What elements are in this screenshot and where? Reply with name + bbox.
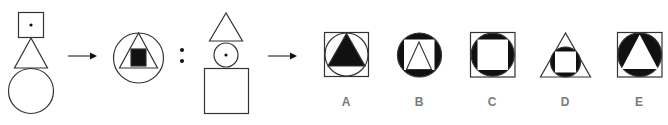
option-c-figure[interactable] [471, 33, 516, 78]
black-square-shape [131, 49, 146, 66]
colon-dot [180, 48, 184, 52]
premise-left-figure [9, 13, 54, 114]
option-c-label: C [482, 95, 502, 109]
dot-shape [29, 23, 32, 26]
option-d-figure[interactable] [541, 33, 591, 77]
circle-shape [9, 69, 54, 114]
option-b-figure[interactable] [398, 33, 442, 77]
option-e-label: E [629, 95, 649, 109]
option-a-figure[interactable] [325, 33, 369, 77]
triangle-shape [210, 13, 243, 41]
option-e-figure[interactable] [618, 33, 663, 78]
option-a-label: A [336, 95, 356, 109]
query-left-figure [205, 13, 249, 114]
option-d-label: D [555, 95, 575, 109]
option-b-label: B [409, 95, 429, 109]
dot-shape [224, 53, 227, 56]
triangle-shape [15, 38, 48, 68]
colon-dot [180, 59, 184, 63]
premise-right-figure [114, 33, 164, 83]
square-shape [205, 69, 249, 114]
separator-colon [180, 48, 186, 64]
right-arrow-icon [68, 53, 97, 60]
right-arrow-icon [268, 53, 297, 60]
